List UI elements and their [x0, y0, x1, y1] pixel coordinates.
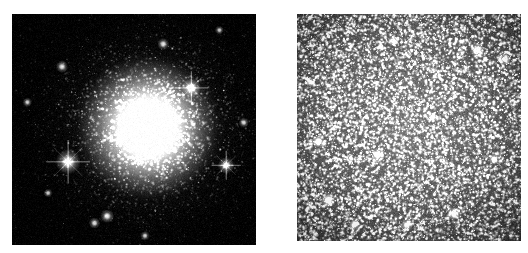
panel-resolved-core-view[interactable]	[297, 14, 521, 241]
resolved-core-image-canvas	[297, 14, 521, 241]
panel-right-description: High-resolution space-telescope image of…	[0, 0, 1, 1]
figure-root: Globular cluster comparison Ground-based…	[0, 0, 528, 253]
panel-left-description: Ground-based wide-field image of a globu…	[0, 0, 1, 1]
figure-title: Globular cluster comparison	[0, 0, 1, 1]
panel-wide-field-view[interactable]	[12, 14, 256, 245]
wide-field-image-canvas	[12, 14, 256, 245]
